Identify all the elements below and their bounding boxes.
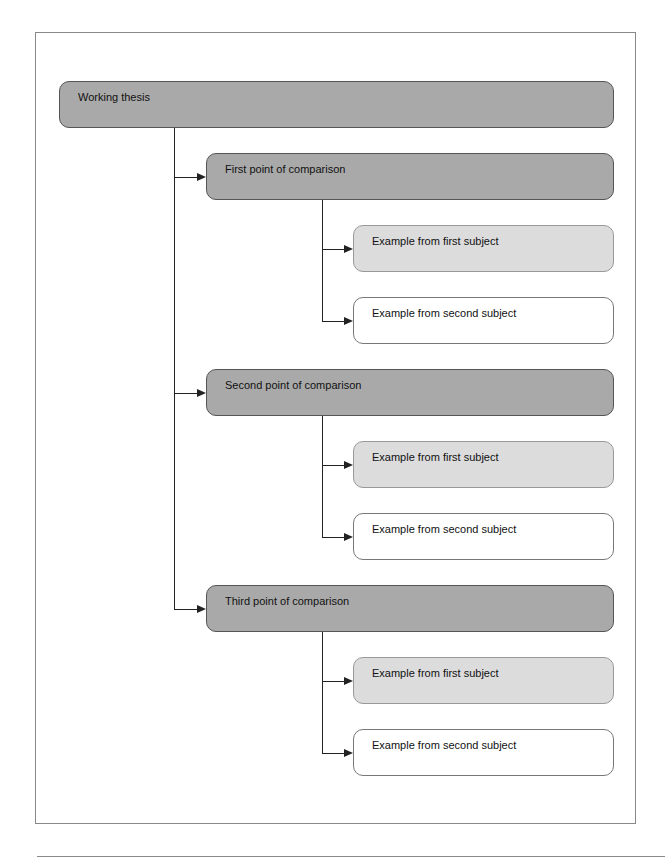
example-box: Example from second subject: [353, 513, 614, 560]
thesis-label: Working thesis: [78, 91, 150, 103]
connector: [174, 177, 198, 178]
thesis-box: Working thesis: [59, 81, 614, 128]
connector: [322, 249, 345, 250]
example-label: Example from second subject: [372, 307, 516, 319]
arrow-icon: [344, 245, 353, 253]
arrow-icon: [197, 389, 206, 397]
arrow-icon: [344, 533, 353, 541]
arrow-icon: [344, 749, 353, 757]
example-label: Example from second subject: [372, 523, 516, 535]
example-box: Example from first subject: [353, 441, 614, 488]
trunk-connector: [174, 128, 175, 609]
branch-connector: [322, 416, 323, 537]
point-box-3: Third point of comparison: [206, 585, 614, 632]
point-label: Second point of comparison: [225, 379, 361, 391]
example-label: Example from first subject: [372, 667, 499, 679]
arrow-icon: [197, 605, 206, 613]
branch-connector: [322, 200, 323, 321]
example-box: Example from first subject: [353, 657, 614, 704]
connector: [174, 393, 198, 394]
example-box: Example from first subject: [353, 225, 614, 272]
arrow-icon: [344, 317, 353, 325]
point-box-2: Second point of comparison: [206, 369, 614, 416]
example-label: Example from second subject: [372, 739, 516, 751]
connector: [322, 321, 345, 322]
connector: [322, 753, 345, 754]
arrow-icon: [344, 461, 353, 469]
arrow-icon: [197, 173, 206, 181]
example-label: Example from first subject: [372, 451, 499, 463]
point-label: Third point of comparison: [225, 595, 349, 607]
point-box-1: First point of comparison: [206, 153, 614, 200]
example-box: Example from second subject: [353, 297, 614, 344]
connector: [174, 609, 198, 610]
example-label: Example from first subject: [372, 235, 499, 247]
diagram-frame: [35, 32, 636, 824]
connector: [322, 681, 345, 682]
branch-connector: [322, 632, 323, 753]
point-label: First point of comparison: [225, 163, 345, 175]
page-rule: [37, 856, 665, 857]
example-box: Example from second subject: [353, 729, 614, 776]
connector: [322, 465, 345, 466]
connector: [322, 537, 345, 538]
arrow-icon: [344, 677, 353, 685]
